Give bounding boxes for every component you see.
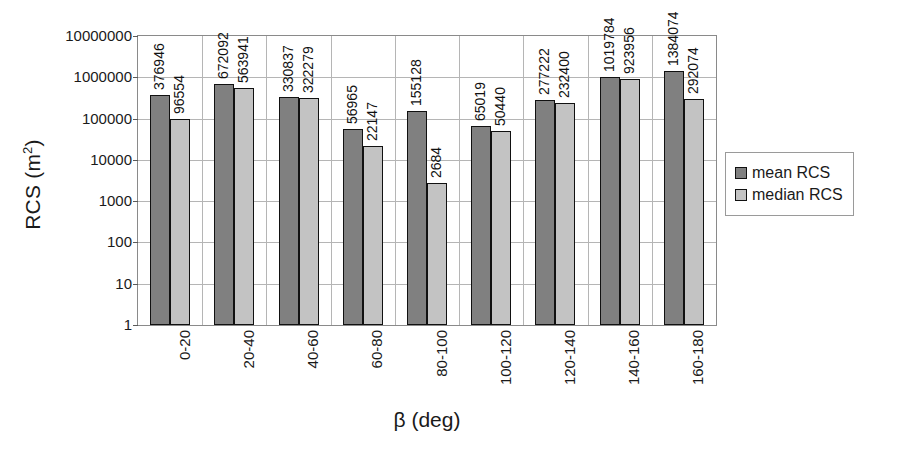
- bar-value-label: 96554: [172, 75, 186, 114]
- bar-value-label: 2684: [429, 147, 443, 178]
- gridline-vertical: [202, 36, 203, 325]
- y-axis-tick-mark: [133, 36, 138, 37]
- x-axis-label: 80-100: [434, 330, 449, 400]
- bar-median: 563941: [234, 88, 254, 325]
- y-axis-tick-label: 1: [28, 317, 132, 332]
- y-axis-tick-label: 10: [28, 275, 132, 290]
- bar-median: 96554: [170, 119, 190, 325]
- x-axis-label: 0-20: [177, 330, 192, 400]
- gridline-vertical: [266, 36, 267, 325]
- bar-median: 232400: [555, 103, 575, 325]
- y-axis-tick-mark: [133, 201, 138, 202]
- x-axis-title: β (deg): [137, 408, 717, 432]
- bar-value-label: 50440: [493, 87, 507, 126]
- bar-value-label: 1384074: [665, 12, 679, 67]
- x-axis-label: 40-60: [305, 330, 320, 400]
- bar-value-label: 672092: [216, 33, 230, 80]
- y-axis-tick-label: 1000: [28, 193, 132, 208]
- bar-value-label: 232400: [557, 52, 571, 99]
- bar-value-label: 563941: [236, 36, 250, 83]
- bar-median: 2684: [427, 183, 447, 325]
- legend-label: median RCS: [752, 187, 843, 203]
- x-axis-category-labels: 0-2020-4040-6060-8080-100100-120120-1401…: [137, 330, 717, 400]
- bar-value-label: 923956: [621, 27, 635, 74]
- legend-swatch-icon: [735, 167, 747, 179]
- bar-value-label: 65019: [473, 82, 487, 121]
- bar-median: 923956: [620, 79, 640, 325]
- bar-value-label: 376946: [152, 43, 166, 90]
- chart-legend: mean RCSmedian RCS: [725, 152, 854, 216]
- y-axis-tick-mark: [133, 284, 138, 285]
- legend-label: mean RCS: [752, 165, 830, 181]
- bar-value-label: 22147: [364, 102, 378, 141]
- bar-mean: 1384074: [664, 71, 684, 325]
- y-axis-tick-mark: [133, 160, 138, 161]
- bar-mean: 65019: [471, 126, 491, 325]
- plot-area: 3769469655467209256394133083732227956965…: [137, 35, 717, 326]
- y-axis-tick-labels: 100000001000000100000100001000100101: [28, 35, 132, 326]
- x-axis-label: 100-120: [498, 330, 513, 400]
- gridline-vertical: [395, 36, 396, 325]
- bar-value-label: 56965: [344, 85, 358, 124]
- y-axis-tick-mark: [133, 119, 138, 120]
- bar-median: 22147: [363, 146, 383, 325]
- bar-median: 322279: [299, 98, 319, 325]
- y-axis-tick-label: 1000000: [28, 69, 132, 84]
- gridline-vertical: [459, 36, 460, 325]
- x-axis-label: 120-140: [562, 330, 577, 400]
- legend-item: median RCS: [735, 184, 843, 206]
- gridline-vertical: [588, 36, 589, 325]
- y-axis-tick-label: 10000: [28, 151, 132, 166]
- bar-mean: 376946: [150, 95, 170, 325]
- bar-mean: 330837: [279, 97, 299, 325]
- bar-median: 292074: [684, 99, 704, 325]
- bar-mean: 56965: [343, 129, 363, 325]
- x-axis-label: 140-160: [626, 330, 641, 400]
- bar-value-label: 330837: [280, 45, 294, 92]
- legend-item: mean RCS: [735, 162, 843, 184]
- x-axis-label: 160-180: [690, 330, 705, 400]
- bar-value-label: 155128: [409, 59, 423, 106]
- bar-mean: 672092: [214, 84, 234, 325]
- gridline-vertical: [523, 36, 524, 325]
- y-axis-tick-mark: [133, 242, 138, 243]
- bar-mean: 1019784: [600, 77, 620, 325]
- gridline-vertical: [331, 36, 332, 325]
- bar-median: 50440: [491, 131, 511, 325]
- y-axis-tick-mark: [133, 77, 138, 78]
- x-axis-label: 20-40: [241, 330, 256, 400]
- bar-value-label: 322279: [300, 46, 314, 93]
- gridline-vertical: [652, 36, 653, 325]
- y-axis-tick-label: 100000: [28, 110, 132, 125]
- bar-mean: 277222: [535, 100, 555, 325]
- rcs-bar-chart: RCS (m2) 1000000010000001000001000010001…: [0, 0, 913, 457]
- x-axis-label: 60-80: [369, 330, 384, 400]
- y-axis-tick-label: 100: [28, 234, 132, 249]
- bar-value-label: 1019784: [601, 17, 615, 72]
- bar-value-label: 292074: [685, 48, 699, 95]
- y-axis-tick-mark: [133, 325, 138, 326]
- y-axis-tick-label: 10000000: [28, 28, 132, 43]
- bar-mean: 155128: [407, 111, 427, 325]
- legend-swatch-icon: [735, 189, 747, 201]
- bar-value-label: 277222: [537, 49, 551, 96]
